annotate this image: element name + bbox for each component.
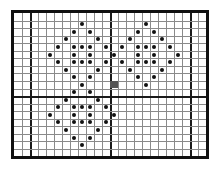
grid-line-horizontal — [14, 119, 206, 120]
grid-dot — [136, 75, 140, 79]
grid-line-vertical — [54, 13, 55, 156]
grid-line-horizontal — [14, 21, 206, 22]
grid-line-horizontal — [14, 149, 206, 150]
grid-dot — [144, 83, 148, 87]
grid-line-vertical — [86, 13, 87, 156]
grid-dot — [64, 128, 68, 132]
grid-dot — [56, 105, 60, 109]
grid-line-horizontal — [14, 134, 206, 135]
grid-dot — [72, 53, 76, 57]
grid-divider-horizontal — [14, 96, 206, 98]
grid-dot — [136, 60, 140, 64]
grid-dot — [80, 105, 84, 109]
grid-line-vertical — [134, 13, 135, 156]
grid-dot — [120, 60, 124, 64]
grid-dot — [80, 22, 84, 26]
grid-dot — [72, 90, 76, 94]
grid-line-vertical — [158, 13, 159, 156]
grid-line-vertical — [94, 13, 95, 156]
grid-dot — [80, 83, 84, 87]
grid-line-horizontal — [14, 126, 206, 127]
grid-board — [14, 13, 206, 156]
grid-line-horizontal — [14, 104, 206, 105]
grid-dot — [96, 98, 100, 102]
grid-dot — [96, 68, 100, 72]
grid-divider-vertical — [190, 13, 192, 156]
grid-dot — [80, 120, 84, 124]
grid-dot — [64, 68, 68, 72]
grid-dot — [96, 37, 100, 41]
grid-divider-vertical — [30, 13, 32, 156]
grid-line-horizontal — [14, 51, 206, 52]
grid-dot — [112, 113, 116, 117]
grid-line-vertical — [62, 13, 63, 156]
grid-line-horizontal — [14, 36, 206, 37]
grid-dot — [88, 45, 92, 49]
grid-dot — [104, 60, 108, 64]
grid-dot — [80, 143, 84, 147]
grid-line-horizontal — [14, 73, 206, 74]
grid-dot — [152, 75, 156, 79]
grid-line-horizontal — [14, 28, 206, 29]
grid-line-vertical — [38, 13, 39, 156]
grid-dot — [136, 45, 140, 49]
grid-dot — [56, 60, 60, 64]
grid-line-horizontal — [14, 141, 206, 142]
grid-dot — [152, 45, 156, 49]
grid-line-vertical — [166, 13, 167, 156]
grid-line-vertical — [118, 13, 119, 156]
grid-dot — [144, 45, 148, 49]
grid-line-vertical — [78, 13, 79, 156]
grid-line-vertical — [70, 13, 71, 156]
grid-dot — [136, 53, 140, 57]
grid-dot — [88, 113, 92, 117]
grid-dot — [96, 128, 100, 132]
grid-dot — [48, 113, 52, 117]
grid-dot — [168, 45, 172, 49]
grid-line-horizontal — [14, 89, 206, 90]
grid-dot — [112, 53, 116, 57]
grid-dot — [64, 98, 68, 102]
grid-dot — [144, 22, 148, 26]
grid-line-horizontal — [14, 58, 206, 59]
grid-dot — [152, 30, 156, 34]
grid-dot — [72, 75, 76, 79]
grid-line-horizontal — [14, 111, 206, 112]
grid-dot — [72, 113, 76, 117]
grid-dot — [80, 60, 84, 64]
grid-dot — [176, 53, 180, 57]
grid-dot — [144, 60, 148, 64]
grid-dot — [152, 53, 156, 57]
grid-dot — [56, 45, 60, 49]
grid-line-vertical — [150, 13, 151, 156]
grid-dot — [104, 120, 108, 124]
grid-dot — [160, 68, 164, 72]
grid-line-vertical — [142, 13, 143, 156]
grid-line-horizontal — [14, 66, 206, 67]
grid-dot — [88, 120, 92, 124]
grid-dot — [88, 90, 92, 94]
grid-dot — [64, 37, 68, 41]
grid-dot — [88, 75, 92, 79]
grid-dot — [48, 53, 52, 57]
grid-dot — [152, 60, 156, 64]
grid-dot — [136, 30, 140, 34]
grid-line-vertical — [102, 13, 103, 156]
grid-dot — [104, 45, 108, 49]
grid-dot — [160, 37, 164, 41]
grid-dot — [72, 136, 76, 140]
grid-dot — [120, 45, 124, 49]
grid-dot — [72, 105, 76, 109]
grid-dot — [128, 68, 132, 72]
grid-dot — [72, 45, 76, 49]
grid-dot — [88, 30, 92, 34]
grid-line-vertical — [198, 13, 199, 156]
grid-dot — [104, 105, 108, 109]
grid-dot — [56, 120, 60, 124]
grid-dot — [72, 60, 76, 64]
grid-dot — [72, 30, 76, 34]
grid-line-vertical — [174, 13, 175, 156]
grid-line-vertical — [22, 13, 23, 156]
grid-dot — [88, 53, 92, 57]
grid-dot — [168, 60, 172, 64]
